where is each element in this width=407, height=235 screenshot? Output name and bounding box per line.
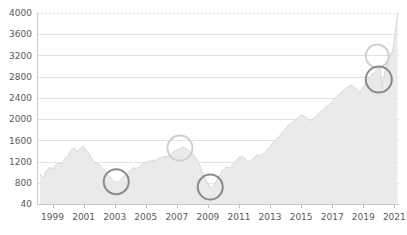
y-tick-label-800: 800 (15, 178, 32, 188)
y-axis-tick-labels: 4080012001600200024002800320036004000 (9, 8, 32, 209)
y-tick-label-2000: 2000 (9, 114, 32, 124)
y-tick-label-2800: 2800 (9, 72, 32, 82)
y-tick-label-1600: 1600 (9, 136, 32, 146)
chart-screenshot: 4080012001600200024002800320036004000 19… (0, 0, 407, 235)
x-tick-label-2005: 2005 (134, 212, 157, 222)
x-tick-label-2017: 2017 (321, 212, 344, 222)
series-area-index (40, 14, 397, 204)
x-tick-label-1999: 1999 (41, 212, 64, 222)
y-tick-label-3200: 3200 (9, 51, 32, 61)
x-tick-label-2003: 2003 (103, 212, 126, 222)
x-tick-label-2001: 2001 (72, 212, 95, 222)
y-tick-label-3600: 3600 (9, 29, 32, 39)
y-tick-label-400: 40 (21, 199, 33, 209)
stock-index-area-chart: 4080012001600200024002800320036004000 19… (0, 0, 407, 235)
y-tick-label-4000: 4000 (9, 8, 32, 18)
x-tick-label-2019: 2019 (352, 212, 375, 222)
x-axis-tick-labels: 1999200120032005200720092011201320152017… (41, 212, 406, 222)
y-tick-label-2400: 2400 (9, 93, 32, 103)
x-tick-label-2021: 2021 (383, 212, 406, 222)
x-tick-label-2011: 2011 (228, 212, 251, 222)
x-tick-label-2015: 2015 (290, 212, 313, 222)
x-tick-label-2009: 2009 (196, 212, 219, 222)
x-tick-label-2013: 2013 (259, 212, 282, 222)
x-tick-label-2007: 2007 (165, 212, 188, 222)
plot-area-group (40, 14, 397, 204)
y-tick-label-1200: 1200 (9, 157, 32, 167)
